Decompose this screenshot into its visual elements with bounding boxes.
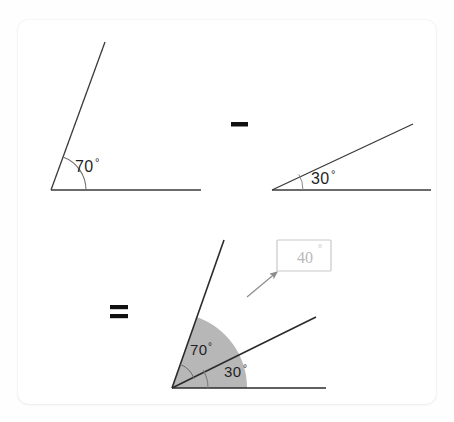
- equals-sign-bar-bottom: [110, 314, 128, 318]
- minus-sign-glyph: [231, 122, 248, 127]
- combined-degree-symbol-70: °: [208, 341, 212, 352]
- worksheet-page: 70 ° – 30 ° =: [0, 0, 454, 422]
- angle-70-label: 70: [75, 158, 94, 175]
- operator-minus: –: [231, 122, 248, 127]
- figure-angle-70: 70 °: [51, 42, 201, 190]
- angle-30-label: 30: [311, 170, 330, 187]
- angle-30-upper-ray: [272, 124, 413, 190]
- combined-label-30: 30: [224, 363, 241, 380]
- answer-box-value[interactable]: 40: [297, 249, 313, 266]
- equals-sign-bar-top: [110, 305, 128, 309]
- operator-equals: =: [110, 305, 128, 318]
- angle-30-degree-symbol: °: [331, 168, 335, 180]
- angle-70-degree-symbol: °: [95, 156, 99, 168]
- diagram-canvas: 70 ° – 30 ° =: [0, 0, 454, 422]
- answer-box[interactable]: 40 °: [277, 240, 331, 271]
- combined-label-70: 70: [190, 341, 207, 358]
- answer-box-degree-symbol: °: [318, 243, 322, 254]
- pointer-arrow: [247, 272, 277, 297]
- combined-degree-symbol-30: °: [243, 363, 247, 374]
- figure-angle-30: 30 °: [272, 124, 431, 190]
